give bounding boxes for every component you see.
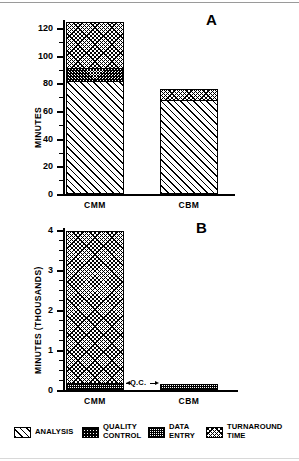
panel-a-ticklabel-60: 60 <box>20 107 53 116</box>
panel-b-tick-3 <box>57 270 63 272</box>
page-top-rule <box>0 2 299 3</box>
legend-swatch-analysis-icon <box>14 427 31 438</box>
panel-b: B MINUTES (THOUSANDS) 0 1 2 3 4 <box>0 214 299 412</box>
panel-a-ticklabel-80: 80 <box>20 79 53 88</box>
panel-a-tick-120 <box>57 28 63 30</box>
legend-item-analysis: ANALYSIS <box>14 420 74 444</box>
panel-a-ticklabel-40: 40 <box>20 135 53 144</box>
panel-a-bar-cmm-segment-turnaround <box>66 22 124 69</box>
panel-a-minor-tick <box>59 153 63 154</box>
panel-b-minor-tick <box>59 250 63 251</box>
panel-b-minor-tick <box>59 380 63 381</box>
panel-a-label: A <box>206 12 217 27</box>
panel-b-y-axis-title: MINUTES (THOUSANDS) <box>33 266 43 374</box>
legend-item-data-entry: DATA ENTRY <box>148 420 195 444</box>
panel-a-ticklabel-100: 100 <box>20 52 53 61</box>
panel-a: A MINUTES 0 20 40 60 80 100 120 <box>0 6 299 210</box>
panel-a-tick-20 <box>57 166 63 168</box>
panel-b-bar-cmm-segment-turnaround <box>66 231 124 385</box>
panel-b-label: B <box>196 220 207 235</box>
panel-b-tick-2 <box>57 310 63 312</box>
panel-a-minor-tick <box>59 70 63 71</box>
panel-b-tick-1 <box>57 350 63 352</box>
panel-a-ticklabel-20: 20 <box>20 162 53 171</box>
panel-a-category-label-cbm: CBM <box>160 200 218 210</box>
panel-a-tick-80 <box>57 83 63 85</box>
panel-a-bar-cmm-segment-quality-control <box>66 68 124 82</box>
panel-a-ticklabel-0: 0 <box>20 190 53 199</box>
panel-b-bar-cmm <box>66 231 124 390</box>
panel-a-y-axis <box>63 20 65 196</box>
panel-b-minor-tick <box>59 280 63 281</box>
panel-b-y-axis <box>63 228 65 392</box>
panel-a-tick-60 <box>57 111 63 113</box>
panel-a-bar-cmm-segment-analysis <box>66 81 124 194</box>
panel-b-bar-cmm-segment-data-entry <box>66 383 124 390</box>
figure-root: A MINUTES 0 20 40 60 80 100 120 <box>0 0 299 461</box>
panel-b-bar-cbm-segment-data-entry <box>160 384 218 390</box>
panel-b-ticklabel-4: 4 <box>24 226 53 235</box>
legend-swatch-turnaround-time-icon <box>206 427 223 438</box>
legend-label-quality-control: QUALITY CONTROL <box>103 423 141 440</box>
panel-b-minor-tick <box>59 300 63 301</box>
page-bottom-rule <box>0 458 299 459</box>
panel-b-minor-tick <box>59 330 63 331</box>
legend-label-analysis: ANALYSIS <box>35 428 74 437</box>
panel-a-x-axis <box>63 194 235 196</box>
panel-b-tick-4 <box>57 230 63 232</box>
panel-b-minor-tick <box>59 240 63 241</box>
panel-b-qc-annotation-label: Q.C. <box>130 379 146 387</box>
panel-a-tick-0 <box>57 194 63 196</box>
panel-a-category-label-cmm: CMM <box>66 200 124 210</box>
panel-b-minor-tick <box>59 340 63 341</box>
panel-a-minor-tick <box>59 97 63 98</box>
panel-b-qc-arrow-right-head <box>155 381 159 385</box>
panel-a-tick-40 <box>57 139 63 141</box>
legend-label-turnaround-time: TURNAROUND TIME <box>227 423 282 440</box>
panel-b-minor-tick <box>59 320 63 321</box>
panel-b-minor-tick <box>59 260 63 261</box>
panel-b-bar-cbm <box>160 384 218 390</box>
panel-b-category-label-cbm: CBM <box>160 396 218 406</box>
panel-b-x-axis <box>60 390 238 392</box>
panel-a-ticklabel-120: 120 <box>20 24 53 33</box>
panel-a-minor-tick <box>59 125 63 126</box>
panel-a-minor-tick <box>59 42 63 43</box>
panel-b-ticklabel-0: 0 <box>24 386 53 395</box>
panel-a-bar-cbm <box>160 89 218 194</box>
legend-swatch-data-entry-icon <box>148 427 165 438</box>
legend-item-quality-control: QUALITY CONTROL <box>82 420 141 444</box>
panel-a-bar-cbm-segment-analysis <box>160 100 218 194</box>
panel-a-bar-cmm <box>66 22 124 194</box>
legend-swatch-quality-control-icon <box>82 427 99 438</box>
legend-label-data-entry: DATA ENTRY <box>169 423 195 440</box>
panel-b-qc-arrow-left-line <box>126 383 131 384</box>
panel-b-ticklabel-1: 1 <box>24 346 53 355</box>
panel-a-minor-tick <box>59 180 63 181</box>
panel-b-minor-tick <box>59 360 63 361</box>
panel-b-category-label-cmm: CMM <box>66 396 124 406</box>
panel-b-tick-0 <box>57 390 63 392</box>
panel-b-ticklabel-2: 2 <box>24 306 53 315</box>
panel-b-minor-tick <box>59 290 63 291</box>
panel-a-tick-100 <box>57 56 63 58</box>
legend-item-turnaround-time: TURNAROUND TIME <box>206 420 282 444</box>
panel-b-minor-tick <box>59 370 63 371</box>
legend: ANALYSIS QUALITY CONTROL DATA ENTRY TURN… <box>0 420 299 452</box>
panel-b-ticklabel-3: 3 <box>24 266 53 275</box>
